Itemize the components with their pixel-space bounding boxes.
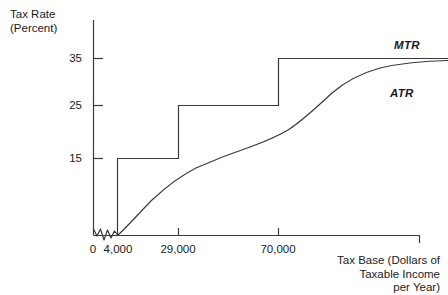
series-label-mtr: MTR: [394, 39, 420, 51]
y-tick-label-15: 15: [42, 152, 82, 164]
x-tick-label-29000: 29,000: [148, 243, 208, 255]
y-tick-marks: [94, 59, 104, 159]
y-tick-label-35: 35: [42, 52, 82, 64]
x-tick-label-4000: 4,000: [88, 243, 148, 255]
y-axis-title: Tax Rate (Percent): [10, 8, 57, 35]
x-axis-title: Tax Base (Dollars of Taxable Income per …: [236, 254, 440, 295]
x-tick-marks: [179, 228, 279, 236]
y-tick-label-25: 25: [42, 99, 82, 111]
series-label-atr: ATR: [390, 87, 414, 99]
axis-break-squiggle-icon: [94, 229, 119, 240]
mtr-step-line: [118, 59, 448, 236]
